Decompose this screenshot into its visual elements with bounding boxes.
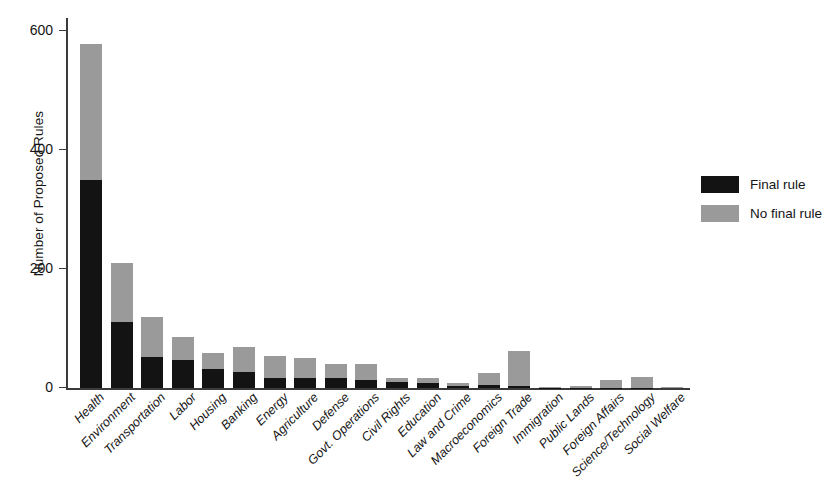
legend-item-no-final-rule: No final rule xyxy=(701,199,831,228)
bar-segment-no-final-rule xyxy=(600,380,622,388)
legend-item-final-rule: Final rule xyxy=(701,170,831,199)
bar-segment-no-final-rule xyxy=(417,378,439,384)
bar-segment-no-final-rule xyxy=(661,387,683,388)
bar-segment-no-final-rule xyxy=(508,351,530,386)
bar-segment-no-final-rule xyxy=(570,386,592,388)
plot-area: 0200400600 xyxy=(66,18,690,390)
bar-segment-no-final-rule xyxy=(264,356,286,378)
y-tick-label: 600 xyxy=(30,22,53,38)
x-axis-tick-labels: HealthEnvironmentTransportationLaborHous… xyxy=(66,391,726,488)
bar-segment-final-rule xyxy=(570,388,592,389)
bar-segment-final-rule xyxy=(478,385,500,388)
bar-segment-final-rule xyxy=(325,378,347,388)
bar-segment-no-final-rule xyxy=(631,377,653,388)
bar-segment-final-rule xyxy=(80,180,102,388)
bar-segment-final-rule xyxy=(111,322,133,389)
chart-legend: Final rule No final rule xyxy=(701,170,831,228)
legend-swatch-no-final-rule xyxy=(701,205,739,222)
bar-segment-no-final-rule xyxy=(80,44,102,180)
bar-segment-no-final-rule xyxy=(355,364,377,381)
bar-segment-no-final-rule xyxy=(478,373,500,385)
bar-segment-final-rule xyxy=(172,360,194,389)
bar-segment-no-final-rule xyxy=(325,364,347,378)
bar-segment-no-final-rule xyxy=(447,383,469,386)
bar-segment-final-rule xyxy=(294,378,316,388)
bar-segment-final-rule xyxy=(202,369,224,389)
x-axis-line xyxy=(66,388,690,390)
bar-segment-no-final-rule xyxy=(172,337,194,360)
y-axis-title: Number of Proposed Rules xyxy=(31,64,46,324)
legend-label-final-rule: Final rule xyxy=(750,177,806,192)
bar-segment-no-final-rule xyxy=(386,378,408,382)
bar-segment-final-rule xyxy=(264,378,286,388)
bar-segment-final-rule xyxy=(233,372,255,388)
y-tick-label: 400 xyxy=(30,141,53,157)
bar-segment-no-final-rule xyxy=(539,387,561,388)
bar-group xyxy=(66,19,690,388)
bar-segment-final-rule xyxy=(417,383,439,388)
bar-segment-final-rule xyxy=(508,386,530,388)
bar-segment-final-rule xyxy=(447,386,469,388)
bar-segment-final-rule xyxy=(631,388,653,389)
y-tick-label: 200 xyxy=(30,260,53,276)
stacked-bar-chart: Number of Proposed Rules 0200400600 Heal… xyxy=(0,0,835,488)
bar-segment-no-final-rule xyxy=(202,353,224,368)
legend-swatch-final-rule xyxy=(701,176,739,193)
bar-segment-no-final-rule xyxy=(294,358,316,378)
bar-segment-no-final-rule xyxy=(233,347,255,373)
bar-segment-no-final-rule xyxy=(111,263,133,322)
legend-label-no-final-rule: No final rule xyxy=(750,206,822,221)
bar-segment-final-rule xyxy=(355,380,377,388)
bar-segment-final-rule xyxy=(600,388,622,389)
bar-segment-no-final-rule xyxy=(141,317,163,357)
bar-segment-final-rule xyxy=(386,382,408,388)
y-tick-label: 0 xyxy=(45,379,53,395)
bar-segment-final-rule xyxy=(141,357,163,388)
bar-segment-final-rule xyxy=(539,388,561,389)
